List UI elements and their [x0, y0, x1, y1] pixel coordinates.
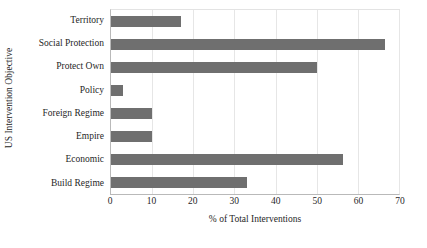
bar-row [111, 148, 399, 171]
x-axis-tick: 0 [108, 197, 113, 207]
x-axis-tick: 30 [230, 197, 240, 207]
y-axis-label: Economic [16, 149, 108, 172]
bar-row [111, 125, 399, 148]
x-axis-title-label: % of Total Interventions [209, 214, 301, 224]
bar-row [111, 33, 399, 56]
y-axis-label: Social Protection [16, 32, 108, 55]
x-axis-tick: 60 [354, 197, 364, 207]
y-axis-category-labels: TerritorySocial ProtectionProtect OwnPol… [16, 9, 108, 195]
y-axis-label: Territory [16, 9, 108, 32]
y-axis-label: Foreign Regime [16, 102, 108, 125]
bar [111, 131, 152, 142]
y-axis-label: Protect Own [16, 56, 108, 79]
x-axis-tick-labels: 010203040506070 [110, 197, 400, 213]
gridline [399, 10, 400, 194]
plot-area [110, 9, 400, 195]
x-axis-tick: 10 [147, 197, 157, 207]
bar [111, 39, 385, 50]
bar-series [111, 10, 399, 194]
bar-row [111, 10, 399, 33]
x-axis-tick: 70 [395, 197, 405, 207]
y-axis-label: Build Regime [16, 172, 108, 195]
bar [111, 154, 343, 165]
bar-row [111, 171, 399, 194]
bar-row [111, 79, 399, 102]
bar [111, 16, 181, 27]
bar-row [111, 56, 399, 79]
y-axis-title-label: US Intervention Objective [4, 48, 14, 148]
bar-row [111, 102, 399, 125]
bar [111, 108, 152, 119]
bar [111, 62, 317, 73]
x-axis-tick: 40 [271, 197, 281, 207]
x-axis-tick: 20 [188, 197, 198, 207]
bar-chart: US Intervention Objective TerritorySocia… [0, 0, 427, 248]
y-axis-label: Empire [16, 125, 108, 148]
bar [111, 177, 247, 188]
x-axis-tick: 50 [312, 197, 322, 207]
x-axis-title: % of Total Interventions [110, 214, 400, 224]
y-axis-label: Policy [16, 79, 108, 102]
bar [111, 85, 123, 96]
